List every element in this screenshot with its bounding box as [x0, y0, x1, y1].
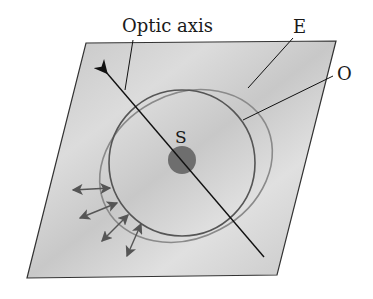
birefringence-diagram: Optic axis E O S — [0, 0, 373, 299]
o-label: O — [337, 63, 352, 84]
optic-axis-label: Optic axis — [122, 15, 213, 36]
e-label: E — [293, 16, 306, 37]
s-label: S — [175, 127, 187, 147]
